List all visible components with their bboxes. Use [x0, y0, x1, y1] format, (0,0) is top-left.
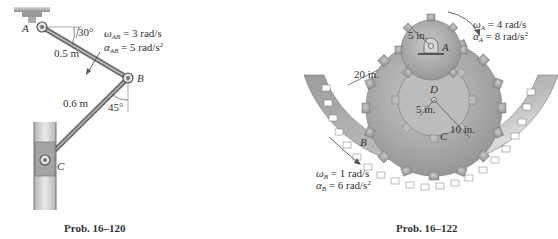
alpha-a-label: αA = 8 rad/s2: [473, 31, 528, 44]
length-label-ab: 0.5 m: [54, 48, 79, 59]
point-label-c-gear: C: [440, 131, 447, 142]
link-bc-highlight: [45, 78, 128, 160]
point-label-a: A: [22, 23, 29, 34]
point-label-b-ring: B: [360, 137, 367, 148]
point-label-d: D: [430, 84, 438, 95]
radius-label-ring-b: 20 in.: [354, 69, 379, 80]
point-label-c: C: [57, 161, 64, 172]
caption-prob-16-122: Prob. 16–122: [396, 222, 458, 234]
pin-support-a: [14, 7, 50, 23]
radius-label-gear-c: 10 in.: [450, 124, 475, 135]
pin-a-gear: [429, 44, 434, 49]
point-label-b: B: [137, 73, 144, 84]
radius-label-gear-a: 5 in.: [408, 30, 428, 41]
point-label-a-gear: A: [442, 42, 449, 53]
alpha-ab-label: αAB = 5 rad/s2: [104, 42, 163, 55]
vertical-guide-slot: [34, 122, 56, 210]
alpha-b-label: αB = 6 rad/s2: [316, 180, 371, 193]
radius-label-gear-d: 5 in.: [416, 104, 436, 115]
angle-label-45: 45°: [108, 102, 123, 113]
angle-label-30: 30°: [78, 27, 93, 38]
length-label-bc: 0.6 m: [63, 98, 88, 109]
omega-ab-label: ωAB = 3 rad/s: [104, 28, 162, 41]
caption-prob-16-120: Prob. 16–120: [64, 222, 126, 234]
